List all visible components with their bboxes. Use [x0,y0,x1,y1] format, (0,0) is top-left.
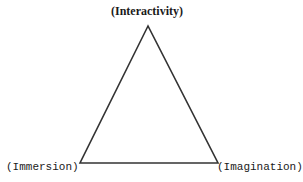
triangle-shape [80,26,218,163]
vertex-label-imagination: (Imagination) [217,162,303,173]
triangle-diagram [0,0,303,182]
vertex-label-immersion: (Immersion) [6,162,79,173]
vertex-label-interactivity: (Interactivity) [111,5,183,17]
